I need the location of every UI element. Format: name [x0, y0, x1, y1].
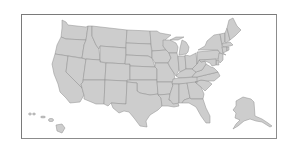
state-az[interactable] — [81, 80, 105, 104]
island-oahu[interactable] — [33, 113, 36, 115]
alaska-inset — [233, 97, 272, 129]
state-nd[interactable] — [126, 30, 151, 44]
state-wa[interactable] — [61, 20, 88, 40]
state-co[interactable] — [105, 63, 130, 81]
island-molokai[interactable] — [41, 116, 46, 118]
contiguous-us — [52, 18, 241, 127]
state-wy[interactable] — [100, 46, 126, 64]
state-me[interactable] — [227, 18, 241, 40]
state-fl[interactable] — [182, 98, 210, 123]
island-maui[interactable] — [48, 118, 53, 121]
state-ak[interactable] — [233, 97, 272, 129]
state-mt[interactable] — [92, 26, 127, 49]
state-ct[interactable] — [222, 47, 227, 53]
state-ri[interactable] — [227, 47, 229, 51]
state-nj[interactable] — [218, 53, 223, 63]
island-kauai[interactable] — [29, 113, 32, 115]
island-hawaii[interactable] — [56, 124, 65, 133]
state-ks[interactable] — [130, 66, 157, 80]
hawaii-inset — [29, 113, 65, 133]
us-map — [0, 0, 290, 148]
state-nm[interactable] — [104, 80, 127, 106]
